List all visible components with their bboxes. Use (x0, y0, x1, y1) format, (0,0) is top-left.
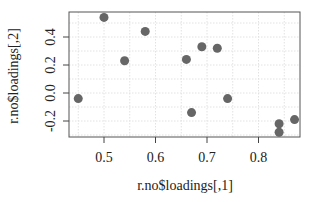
x-tick-label: 0.8 (250, 150, 268, 165)
data-point (213, 44, 222, 53)
y-axis-title: r.no$loadings[,2] (6, 28, 21, 124)
y-tick-label: 0.0 (43, 84, 58, 102)
y-axis: -0.20.00.20.4 (43, 28, 69, 132)
data-point (74, 94, 83, 103)
grid-lines (69, 12, 300, 137)
data-point (100, 13, 109, 22)
data-point (223, 94, 232, 103)
y-tick-label: 0.4 (43, 28, 58, 46)
x-tick-label: 0.6 (147, 150, 165, 165)
data-point (290, 115, 299, 124)
x-axis: 0.50.60.70.8 (95, 137, 267, 165)
x-axis-title: r.no$loadings[,1] (137, 178, 233, 193)
y-tick-label: 0.2 (43, 56, 58, 74)
x-tick-label: 0.5 (95, 150, 113, 165)
data-points (74, 13, 299, 137)
y-tick-label: -0.2 (43, 110, 58, 132)
x-tick-label: 0.7 (198, 150, 216, 165)
data-point (187, 108, 196, 117)
scatter-chart: 0.50.60.70.8 -0.20.00.20.4 r.no$loadings… (0, 0, 319, 202)
data-point (275, 119, 284, 128)
data-point (275, 128, 284, 137)
data-point (197, 42, 206, 51)
data-point (182, 55, 191, 64)
data-point (120, 56, 129, 65)
data-point (141, 27, 150, 36)
